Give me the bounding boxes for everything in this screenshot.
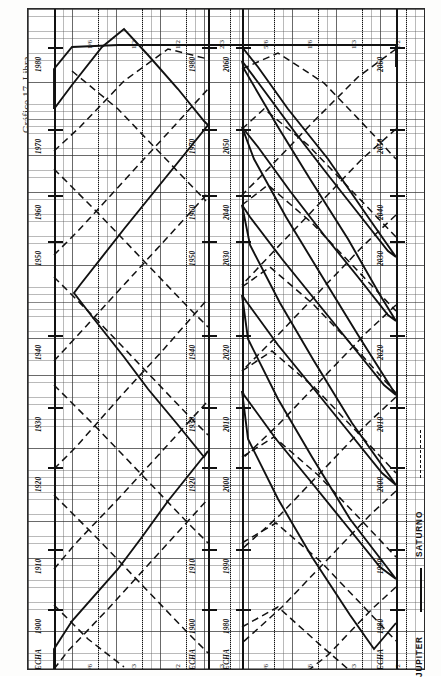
legend-solid-rule — [420, 568, 422, 612]
series-layer — [28, 9, 424, 669]
series-jupiter — [54, 29, 396, 669]
legend-label-saturno: SATURNO — [415, 511, 424, 557]
legend-label-jupiter: JUPITER — [415, 636, 424, 677]
plot-area: 1980 1970 1960 1950 1940 1930 1920 1910 … — [27, 8, 425, 670]
series-saturno — [54, 49, 396, 669]
legend-dashed-rule — [420, 430, 421, 478]
